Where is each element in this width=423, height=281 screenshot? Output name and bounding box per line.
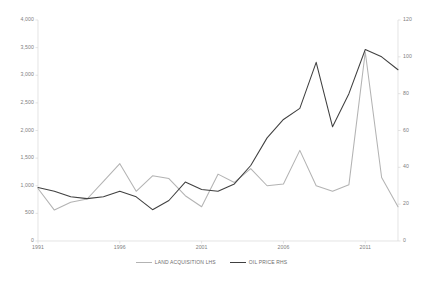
- right-axis-tick-label: 120: [403, 17, 423, 22]
- legend-label: LAND ACQUISITION LHS: [155, 259, 216, 265]
- right-axis-tick-label: 0: [403, 238, 423, 243]
- x-axis-tick-label: 1991: [22, 245, 54, 250]
- legend-item[interactable]: LAND ACQUISITION LHS: [136, 259, 216, 265]
- right-axis-ticks: [398, 20, 401, 241]
- x-axis-tick-label: 2011: [349, 245, 381, 250]
- chart-axes: [36, 20, 401, 244]
- left-axis-tick-label: 0: [2, 238, 34, 243]
- chart-container: 05001,0001,5002,0002,5003,0003,5004,0000…: [0, 0, 423, 281]
- legend-item[interactable]: OIL PRICE RHS: [230, 259, 287, 265]
- left-axis-tick-label: 3,500: [2, 45, 34, 50]
- left-axis-tick-label: 2,500: [2, 100, 34, 105]
- chart-legend: LAND ACQUISITION LHSOIL PRICE RHS: [0, 259, 423, 265]
- left-axis-tick-label: 1,000: [2, 183, 34, 188]
- legend-swatch: [136, 262, 152, 263]
- left-axis-ticks: [36, 20, 39, 241]
- legend-swatch: [230, 262, 246, 263]
- x-axis-tick-label: 2006: [267, 245, 299, 250]
- left-axis-tick-label: 4,000: [2, 17, 34, 22]
- series-line: [38, 52, 398, 210]
- chart-series-layer: [38, 49, 398, 210]
- right-axis-tick-label: 80: [403, 91, 423, 96]
- x-axis-tick-label: 1996: [104, 245, 136, 250]
- series-line: [38, 49, 398, 209]
- left-axis-tick-label: 1,500: [2, 155, 34, 160]
- right-axis-tick-label: 100: [403, 54, 423, 59]
- left-axis-tick-label: 500: [2, 210, 34, 215]
- right-axis-tick-label: 40: [403, 164, 423, 169]
- left-axis-tick-label: 3,000: [2, 72, 34, 77]
- right-axis-tick-label: 20: [403, 201, 423, 206]
- chart-plot-area: [0, 0, 423, 281]
- right-axis-tick-label: 60: [403, 128, 423, 133]
- x-axis-tick-label: 2001: [186, 245, 218, 250]
- left-axis-tick-label: 2,000: [2, 128, 34, 133]
- legend-label: OIL PRICE RHS: [249, 259, 287, 265]
